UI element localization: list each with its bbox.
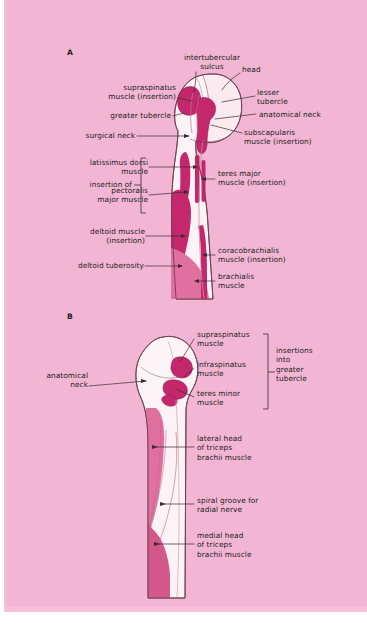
label-medial-head-triceps-b: medial head of triceps brachii muscle [197, 531, 252, 559]
label-spiral-groove-b: spiral groove for radial nerve [197, 496, 258, 515]
label-greater-tubercle-a: greater tubercle [48, 111, 171, 120]
label-subscapularis-a: subscapularis muscle (insertion) [244, 128, 312, 147]
supraspinatus-insertion-marking-b [171, 357, 193, 378]
label-lateral-head-triceps-b: lateral head of triceps brachii muscle [197, 434, 252, 462]
label-brachialis-a: brachialis muscle [218, 272, 254, 291]
plate-left-highlight [4, 0, 7, 612]
label-anatomical-neck-a: anatomical neck [259, 110, 321, 119]
label-intertubercular-sulcus-a: intertubercular sulcus [172, 53, 252, 72]
label-anatomical-neck-b: anatomical neck [14, 371, 88, 390]
label-lesser-tubercle-a: lesser tubercle [257, 88, 288, 107]
label-supraspinatus-a: supraspinatus muscle (insertion) [48, 83, 176, 102]
label-pectoralis-major-a: pectoralis major muscle [48, 186, 148, 205]
label-insertions-into-greater-tubercle-b: insertions into greater tubercle [276, 346, 313, 383]
panel-letter-a: A [67, 48, 73, 57]
label-deltoid-tuberosity-a: deltoid tuberosity [28, 261, 144, 270]
label-teres-major-a: teres major muscle (insertion) [218, 169, 286, 188]
label-supraspinatus-b: supraspinatus muscle [197, 330, 250, 349]
label-teres-minor-b: teres minor muscle [197, 389, 240, 408]
label-infraspinatus-b: infraspinatus muscle [197, 360, 246, 379]
label-deltoid-muscle-a: deltoid muscle (insertion) [40, 227, 145, 246]
label-latissimus-dorsi-a: latissimus dorsi muscle [48, 158, 148, 177]
anatomy-figure: A B intertubercular sulcus head lesser t… [0, 0, 367, 639]
label-surgical-neck-a: surgical neck [48, 131, 135, 140]
label-head-a: head [242, 65, 261, 74]
label-coracobrachialis-a: coracobrachialis muscle (insertion) [218, 246, 286, 265]
plate-bottom-highlight [4, 606, 367, 612]
panel-letter-b: B [67, 312, 73, 321]
